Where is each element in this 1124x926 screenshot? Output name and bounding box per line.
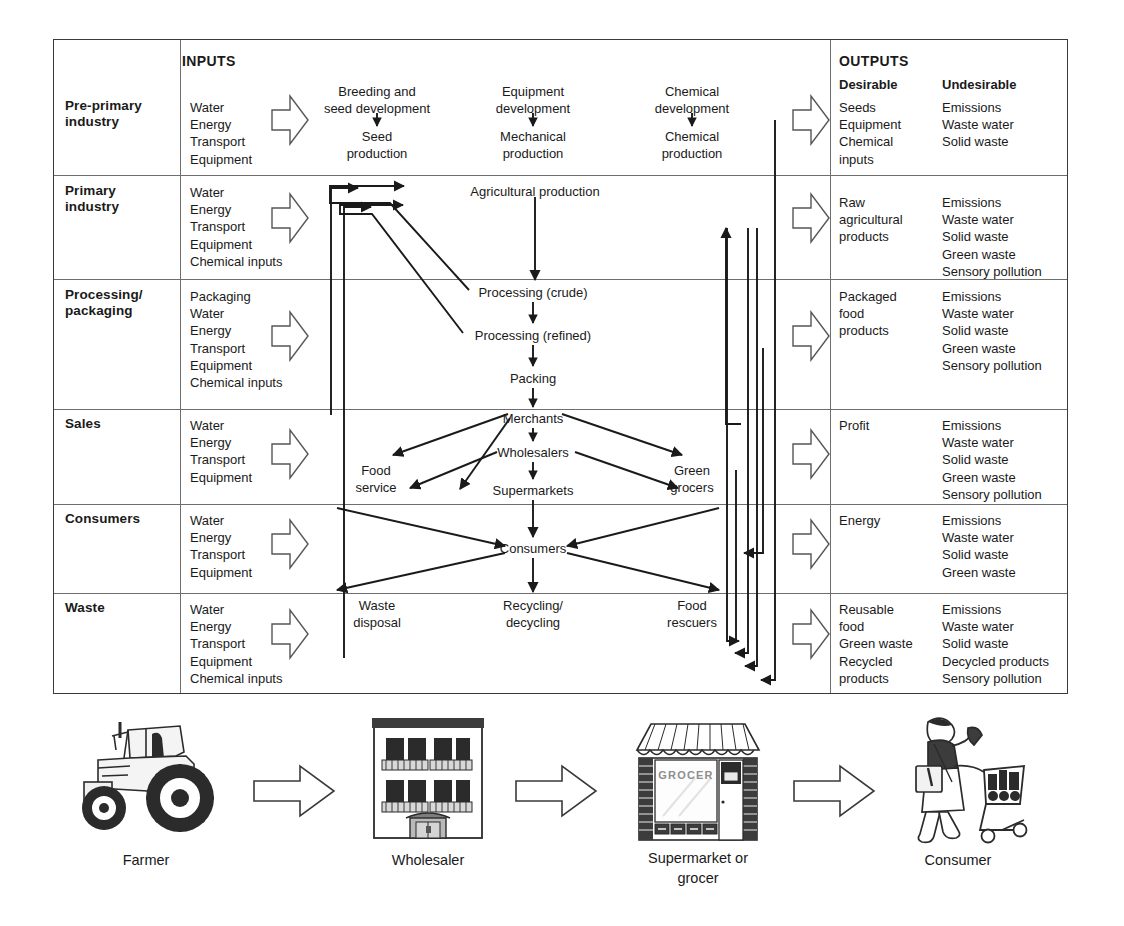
undesirable-list-primary: EmissionsWaste water Solid wasteGreen wa… bbox=[942, 194, 1042, 280]
grocer-shop-icon: GROCER bbox=[633, 716, 763, 848]
inputs-column-header: INPUTS bbox=[182, 53, 236, 69]
node-consumers: Consumers bbox=[500, 541, 566, 557]
desirable-list-consumers: Energy bbox=[839, 512, 880, 529]
outputs-chevron-pre-primary bbox=[791, 94, 831, 150]
node-food-service: Foodservice bbox=[355, 463, 396, 496]
node-waste-disposal: Wastedisposal bbox=[353, 598, 401, 631]
node-processing-refined: Processing (refined) bbox=[475, 328, 591, 344]
inputs-list-primary: WaterEnergy TransportEquipment Chemical … bbox=[190, 184, 283, 270]
inputs-chevron-waste bbox=[270, 608, 310, 664]
undesirable-list-consumers: EmissionsWaste water Solid wasteGreen wa… bbox=[942, 512, 1016, 581]
inputs-chevron-processing bbox=[270, 310, 310, 366]
outputs-column-header: OUTPUTS bbox=[839, 53, 909, 69]
desirable-list-processing: Packagedfood products bbox=[839, 288, 897, 340]
undesirable-subheader: Undesirable bbox=[942, 77, 1016, 92]
row-label-pre-primary: Pre-primaryindustry bbox=[65, 98, 142, 129]
node-green-grocers: Greengrocers bbox=[670, 463, 713, 496]
shopper-icon bbox=[898, 708, 1030, 852]
node-wholesalers: Wholesalers bbox=[497, 445, 569, 461]
right-arrow-icon bbox=[792, 763, 876, 823]
node-chemical-development: Chemicaldevelopment bbox=[655, 84, 729, 117]
figure-root: INPUTS OUTPUTS Desirable Undesirable Pre… bbox=[0, 0, 1124, 926]
undesirable-list-processing: EmissionsWaste water Solid wasteGreen wa… bbox=[942, 288, 1042, 374]
outputs-chevron-processing bbox=[791, 310, 831, 366]
node-mechanical-production: Mechanicalproduction bbox=[500, 129, 566, 162]
node-processing-crude: Processing (crude) bbox=[478, 285, 587, 301]
desirable-list-primary: Rawagricultural products bbox=[839, 194, 903, 246]
outputs-chevron-primary bbox=[791, 192, 831, 248]
row-label-primary: Primaryindustry bbox=[65, 183, 119, 214]
node-packing: Packing bbox=[510, 371, 556, 387]
warehouse-icon bbox=[372, 712, 484, 848]
outputs-chevron-sales bbox=[791, 428, 831, 484]
row-label-consumers: Consumers bbox=[65, 511, 140, 527]
row-divider bbox=[54, 279, 1067, 280]
node-seed-production: Seedproduction bbox=[347, 129, 408, 162]
inputs-chevron-consumers bbox=[270, 518, 310, 574]
node-food-rescuers: Foodrescuers bbox=[667, 598, 717, 631]
row-label-sales: Sales bbox=[65, 416, 101, 432]
inputs-chevron-primary bbox=[270, 192, 310, 248]
grocer-sign-text: GROCER bbox=[658, 769, 713, 781]
node-chemical-production: Chemicalproduction bbox=[662, 129, 723, 162]
inputs-list-processing: PackagingWater EnergyTransport Equipment… bbox=[190, 288, 283, 391]
outputs-chevron-waste bbox=[791, 608, 831, 664]
node-supermarkets: Supermarkets bbox=[493, 483, 574, 499]
row-label-waste: Waste bbox=[65, 600, 105, 616]
chain-caption-supermarket: Supermarket or grocer bbox=[648, 848, 748, 888]
tractor-icon bbox=[68, 712, 228, 844]
inputs-list-sales: WaterEnergy TransportEquipment bbox=[190, 417, 252, 486]
node-recycling-decycling: Recycling/decycling bbox=[503, 598, 563, 631]
desirable-subheader: Desirable bbox=[839, 77, 898, 92]
node-breeding-seed-development: Breeding andseed development bbox=[324, 84, 430, 117]
undesirable-list-waste: EmissionsWaste water Solid wasteDecycled… bbox=[942, 601, 1049, 687]
row-divider bbox=[54, 175, 1067, 176]
chain-caption-consumer: Consumer bbox=[925, 850, 992, 870]
outputs-chevron-consumers bbox=[791, 518, 831, 574]
chain-caption-wholesaler: Wholesaler bbox=[392, 850, 465, 870]
undesirable-list-sales: EmissionsWaste water Solid wasteGreen wa… bbox=[942, 417, 1042, 503]
desirable-list-sales: Profit bbox=[839, 417, 869, 434]
node-agricultural-production: Agricultural production bbox=[470, 184, 599, 200]
undesirable-list-pre-primary: EmissionsWaste water Solid waste bbox=[942, 99, 1014, 151]
desirable-list-waste: Reusablefood Green wasteRecycled product… bbox=[839, 601, 913, 687]
row-divider bbox=[54, 504, 1067, 505]
inputs-list-waste: WaterEnergy TransportEquipment Chemical … bbox=[190, 601, 283, 687]
right-arrow-icon bbox=[252, 763, 336, 823]
node-equipment-development: Equipmentdevelopment bbox=[496, 84, 570, 117]
row-divider bbox=[54, 593, 1067, 594]
inputs-list-consumers: WaterEnergy TransportEquipment bbox=[190, 512, 252, 581]
inputs-chevron-pre-primary bbox=[270, 94, 310, 150]
inputs-chevron-sales bbox=[270, 428, 310, 484]
node-merchants: Merchants bbox=[503, 411, 564, 427]
right-arrow-icon bbox=[514, 763, 598, 823]
chain-caption-farmer: Farmer bbox=[123, 850, 170, 870]
column-divider-rowlabel bbox=[180, 40, 181, 693]
desirable-list-pre-primary: SeedsEquipment Chemicalinputs bbox=[839, 99, 901, 168]
row-label-processing: Processing/packaging bbox=[65, 287, 143, 318]
inputs-list-pre-primary: WaterEnergy TransportEquipment bbox=[190, 99, 252, 168]
row-divider bbox=[54, 409, 1067, 410]
